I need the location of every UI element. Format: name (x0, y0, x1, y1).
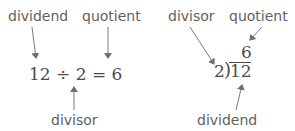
equation-quotient: 6 (112, 64, 123, 84)
quotient-arrow-right (250, 27, 262, 40)
equation-divisor: 2 (76, 64, 87, 84)
equation-equals: = (92, 64, 106, 84)
label-quotient-right: quotient (229, 8, 288, 24)
label-divisor-left: divisor (51, 112, 98, 128)
dividend-arrow-left (32, 27, 36, 58)
divisor-arrow-right (190, 27, 214, 64)
label-dividend-left: dividend (8, 8, 68, 24)
label-quotient-left: quotient (82, 8, 141, 24)
long-division-quotient: 6 (241, 43, 252, 61)
equation-dividend: 12 (29, 64, 51, 84)
dividend-arrow-right (236, 85, 242, 110)
equation-operator-divide: ÷ (56, 64, 70, 84)
long-division-dividend: 12 (230, 62, 252, 80)
label-dividend-right: dividend (197, 112, 257, 128)
label-divisor-right: divisor (168, 8, 215, 24)
equation: 12 ÷ 2 = 6 (29, 65, 122, 83)
